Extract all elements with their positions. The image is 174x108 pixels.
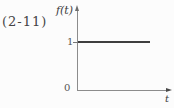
function-line — [78, 41, 150, 43]
x-axis-label: t — [165, 94, 169, 104]
y-axis-label: f(t) — [56, 5, 73, 16]
origin-label: 0 — [64, 83, 70, 93]
y-axis-line — [77, 10, 78, 91]
x-axis-arrow-icon — [166, 88, 172, 92]
x-axis-line — [77, 90, 169, 91]
y-axis-arrow-icon — [75, 5, 79, 11]
figure-2-11: (2-11) f(t) 1 0 t — [0, 0, 174, 108]
y-tick-label-1: 1 — [67, 37, 73, 47]
equation-number-label: (2-11) — [2, 15, 47, 28]
